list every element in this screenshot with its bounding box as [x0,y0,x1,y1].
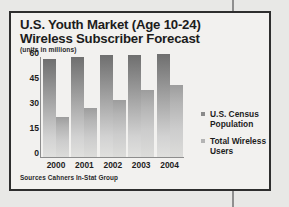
legend-swatch-icon [201,112,205,116]
chart-figure: U.S. Youth Market (Age 10-24) Wireless S… [9,11,271,191]
page-divider-bottom [232,189,234,207]
bar-census-2003 [128,55,141,157]
x-axis-tick-2004: 2004 [155,160,185,170]
plot-area [41,57,183,157]
legend-label: U.S. Census [210,109,275,119]
chart-title-line-2: Wireless Subscriber Forecast [20,32,263,46]
bar-wireless-2000 [56,117,69,157]
legend-swatch-icon [201,139,205,143]
legend-label: Total Wireless [210,136,275,146]
y-axis-tick-15: 15 [29,124,39,132]
bar-wireless-2001 [84,108,97,157]
x-axis-tick-labels: 20002001200220032004 [41,160,183,172]
x-axis-tick-2002: 2002 [98,160,128,170]
legend-label: Population [210,119,275,129]
x-axis-tick-2003: 2003 [126,160,156,170]
y-axis-tick-30: 30 [29,99,39,107]
legend-item-census-population[interactable]: U.S. CensusPopulation [201,109,275,129]
bar-group-2001 [71,57,97,157]
y-axis-tick-0: 0 [34,149,39,157]
y-axis-tick-60: 60 [29,49,39,57]
legend-label: Users [210,146,275,156]
bar-census-2001 [71,57,84,157]
chart-title-line-1: U.S. Youth Market (Age 10-24) [20,18,263,32]
bar-group-2003 [128,57,154,157]
y-axis-tick-45: 45 [29,74,39,82]
x-axis-tick-2001: 2001 [69,160,99,170]
bar-census-2002 [100,55,113,157]
bar-wireless-2003 [141,90,154,157]
chart-legend: U.S. CensusPopulationTotal WirelessUsers [201,109,275,163]
bar-wireless-2004 [170,85,183,158]
chart-source-note: Sources Cahners In-Stat Group [20,174,118,181]
bar-census-2000 [43,59,56,157]
x-axis-tick-2000: 2000 [41,160,71,170]
chart-title: U.S. Youth Market (Age 10-24) Wireless S… [20,18,263,45]
bar-group-2000 [43,57,69,157]
y-axis-tick-labels: 015304560 [17,53,39,157]
legend-item-total-wireless-users[interactable]: Total WirelessUsers [201,136,275,156]
bar-group-2002 [100,57,126,157]
bar-group-2004 [157,57,183,157]
x-axis-line [40,157,184,158]
bar-wireless-2002 [113,100,126,158]
bar-census-2004 [157,54,170,157]
